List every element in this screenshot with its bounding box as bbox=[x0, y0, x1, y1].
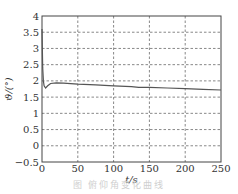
y-tick-label: 2 bbox=[33, 75, 39, 86]
y-tick-label: 4 bbox=[33, 11, 39, 22]
line-chart: 050100150200250−0.500.511.522.533.54 t/s… bbox=[0, 0, 238, 194]
x-tick-label: 0 bbox=[39, 163, 45, 174]
y-tick-label: 0.5 bbox=[23, 124, 39, 135]
y-tick-label: −0.5 bbox=[15, 157, 39, 168]
y-tick-label: 3 bbox=[33, 43, 39, 54]
y-tick-label: 1 bbox=[33, 108, 39, 119]
x-tick-label: 50 bbox=[71, 163, 84, 174]
figure-caption: 图 俯仰角变化曲线 bbox=[0, 178, 238, 191]
y-tick-label: 1.5 bbox=[23, 92, 39, 103]
x-tick-label: 250 bbox=[211, 163, 230, 174]
x-tick-label: 100 bbox=[104, 163, 123, 174]
y-tick-label: 3.5 bbox=[23, 27, 39, 38]
y-tick-label: 0 bbox=[33, 140, 39, 151]
x-tick-label: 200 bbox=[176, 163, 195, 174]
y-tick-label: 2.5 bbox=[23, 59, 39, 70]
x-tick-label: 150 bbox=[140, 163, 159, 174]
y-axis-label: ϑ/(°) bbox=[3, 77, 14, 100]
tick-labels: 050100150200250−0.500.511.522.533.54 bbox=[15, 11, 231, 175]
data-line bbox=[42, 29, 221, 90]
